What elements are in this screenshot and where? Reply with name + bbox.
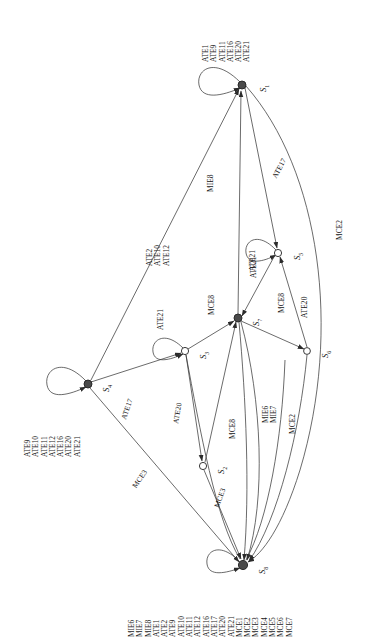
self-loop-events-S3: ATE21 bbox=[157, 309, 165, 330]
state-node-S5[interactable] bbox=[274, 249, 281, 256]
node-label-S6: S6 bbox=[320, 351, 332, 358]
node-label-S5: S5 bbox=[292, 253, 304, 260]
state-nodes bbox=[84, 81, 310, 570]
edge-S5-S7 bbox=[242, 255, 275, 316]
diagram-canvas: S1 S5 S6 S7 S3 S4 S2 S8 ATE1 ATE9 ATE11 … bbox=[0, 0, 372, 639]
state-node-S7[interactable] bbox=[234, 314, 242, 322]
node-label-S4: S4 bbox=[101, 385, 113, 392]
edge-label-S6-S8: MCE2 bbox=[289, 414, 297, 434]
state-node-S3[interactable] bbox=[181, 347, 188, 354]
state-graph-edges bbox=[0, 0, 372, 639]
edge-label-S2-S7: MCE8 bbox=[229, 419, 237, 439]
edge-S3-S7 bbox=[188, 321, 234, 349]
edge-S4-S1 bbox=[91, 89, 239, 380]
edge-S4-S8 bbox=[90, 388, 239, 562]
self-loop-S8 bbox=[207, 550, 240, 573]
edge-label-S1-S8: MCE2 bbox=[336, 220, 344, 240]
state-node-S6[interactable] bbox=[304, 348, 311, 355]
edge-fan-S8-a bbox=[186, 355, 240, 559]
edge-S7-S8-alt bbox=[241, 322, 259, 560]
edge-label-S6-S5: ATE20 bbox=[301, 297, 309, 318]
edge-S7-S1 bbox=[238, 91, 241, 314]
edge-label-S7-S8-mie: MIE6 MIE7 bbox=[262, 406, 279, 423]
state-node-S2[interactable] bbox=[199, 462, 206, 469]
node-label-S3: S3 bbox=[198, 352, 210, 359]
edge-S2-S7 bbox=[205, 322, 236, 462]
edge-label-S7-S6: MCE8 bbox=[278, 293, 286, 313]
self-loop-S1 bbox=[199, 68, 240, 96]
edge-S1-S5 bbox=[245, 88, 277, 248]
node-label-S2: S2 bbox=[216, 467, 228, 474]
self-loop-S4 bbox=[47, 367, 86, 394]
self-loop-events-S4: ATE9 ATE10 ATE11 ATE12 ATE16 ATE20 ATE21 bbox=[24, 436, 82, 457]
self-loop-S3 bbox=[153, 338, 183, 360]
self-loop-events-S1: ATE1 ATE9 ATE11 ATE16 ATE20 ATE21 bbox=[202, 41, 252, 62]
edge-label-S4-S1: ATE2 ATE10 ATE12 bbox=[146, 245, 171, 266]
edge-S6-S8 bbox=[249, 355, 307, 561]
node-label-S1: S1 bbox=[258, 85, 270, 92]
state-node-S4[interactable] bbox=[84, 380, 92, 388]
self-loop-events-S8: MIE6 MIE7 MIE8 ATE1 ATE2 ATE9 ATE10 ATE1… bbox=[128, 616, 294, 637]
edge-S7-S8-mie bbox=[239, 322, 247, 560]
edge-label-S3-S7: MCE8 bbox=[208, 295, 216, 315]
edge-label-S7-S1: MIE8 bbox=[207, 174, 215, 192]
edge-S3-S2 bbox=[186, 355, 202, 461]
node-label-S8: S8 bbox=[257, 567, 269, 574]
state-node-S8[interactable] bbox=[238, 560, 247, 569]
edge-fan-S8-b bbox=[246, 360, 285, 560]
edge-S2-S8 bbox=[204, 470, 241, 559]
edge-S4-S3 bbox=[91, 353, 181, 382]
edge-label-S5-S7: ATE21 bbox=[250, 257, 258, 278]
node-label-S7: S7 bbox=[251, 319, 263, 326]
state-node-S1[interactable] bbox=[238, 81, 246, 89]
